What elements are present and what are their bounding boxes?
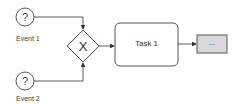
event-1-shape[interactable]: ? [16, 8, 34, 26]
event-1-label: Event 1 [16, 35, 40, 42]
collapsed-label: ... [197, 38, 227, 47]
sequence-flow-event1-gateway[interactable] [34, 17, 83, 29]
event-2-shape[interactable]: ? [16, 72, 34, 90]
question-icon: ? [22, 75, 28, 87]
question-icon: ? [22, 11, 28, 23]
event-2-label: Event 2 [16, 95, 40, 102]
exclusive-gateway[interactable]: X [67, 30, 99, 62]
sequence-flow-event2-gateway[interactable] [34, 63, 83, 81]
task-1-label: Task 1 [115, 39, 178, 48]
diagram-graphics: ? ? X [0, 0, 240, 104]
x-icon: X [79, 39, 88, 54]
bpmn-canvas: ? ? X Event 1 Event 2 Task 1 ... [0, 0, 240, 104]
